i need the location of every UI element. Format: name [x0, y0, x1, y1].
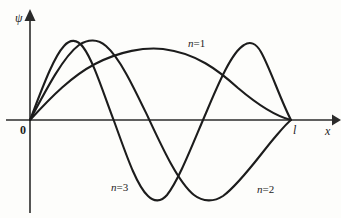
curve-label-n1-value: 1: [200, 37, 206, 49]
curve-label-n1: n=1: [188, 38, 205, 49]
y-axis-label: ψ: [15, 12, 22, 24]
x-axis-label: x: [325, 125, 330, 137]
y-axis-arrowhead: [25, 9, 36, 21]
box-length-label: l: [293, 124, 296, 136]
curve-label-n3: n=3: [111, 182, 128, 193]
x-axis-arrowhead: [332, 115, 341, 126]
curve-label-n2: n=2: [257, 184, 274, 195]
wave-curve-n1: [30, 49, 291, 120]
curve-label-n3-value: 3: [123, 181, 129, 193]
wavefunction-figure: ψ x 0 l n=1 n=2 n=3: [0, 0, 341, 218]
origin-label: 0: [20, 124, 26, 136]
plot-canvas: [0, 0, 341, 218]
curve-label-n2-value: 2: [269, 183, 275, 195]
